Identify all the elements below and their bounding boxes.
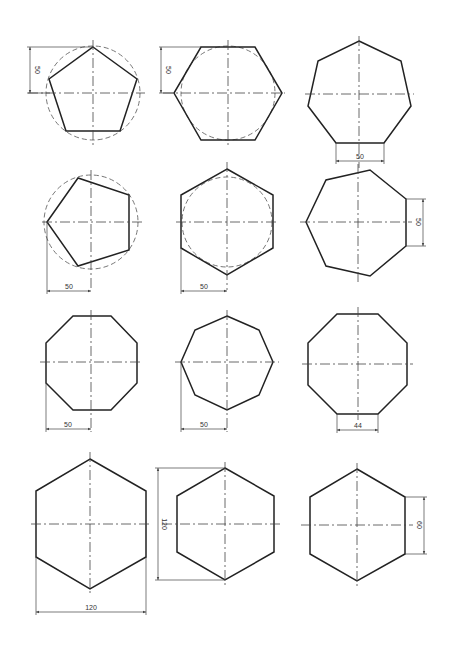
drawing-heptagon-side: 50	[305, 36, 414, 168]
dimension-label: 50	[200, 421, 208, 428]
dimension-arrowhead	[160, 90, 162, 93]
octagon-outline	[46, 316, 137, 410]
dimension-arrowhead	[224, 428, 227, 430]
heptagon-outline	[306, 170, 406, 276]
dimension-label: 50	[65, 283, 73, 290]
dimension-arrowhead	[47, 290, 50, 292]
dimension-arrowhead	[422, 243, 424, 246]
drawing-hexagon-width: 120	[31, 452, 151, 615]
dimension-arrowhead	[157, 577, 159, 580]
drawing-octagon-flat: 50	[40, 310, 143, 432]
drawing-octagon-side: 44	[302, 307, 413, 433]
drawing-hexagon-circumscribed: 50	[159, 40, 285, 146]
dimension-arrowhead	[29, 90, 31, 93]
dimension-arrowhead	[29, 47, 31, 50]
dimension-arrowhead	[143, 611, 146, 613]
dimension-label: 50	[64, 421, 72, 428]
dimension-arrowhead	[181, 290, 184, 292]
dimension-label: 120	[85, 604, 97, 611]
dimension-label: 50	[415, 218, 422, 226]
drawing-octagon-pointed: 50	[175, 310, 279, 432]
polygon-drawing-sheet: 50 50 50 50 50	[0, 0, 455, 648]
dimension-arrowhead	[88, 428, 91, 430]
dimension-arrowhead	[36, 611, 39, 613]
drawing-pentagon-circumscribed: 50	[27, 40, 145, 148]
dimension-arrowhead	[423, 551, 425, 554]
dimension-label: 50	[200, 283, 208, 290]
dimension-label: 120	[161, 518, 168, 530]
heptagon-outline	[308, 41, 411, 143]
dimension-arrowhead	[423, 497, 425, 500]
dimension-arrowhead	[337, 429, 340, 431]
dimension-arrowhead	[157, 468, 159, 471]
dimension-label: 50	[34, 66, 41, 74]
dimension-label: 50	[165, 66, 172, 74]
dimension-label: 60	[416, 521, 423, 529]
dimension-label: 50	[356, 153, 364, 160]
dimension-arrowhead	[422, 199, 424, 202]
dimension-arrowhead	[224, 290, 227, 292]
dimension-arrowhead	[160, 47, 162, 50]
dimension-arrowhead	[181, 428, 184, 430]
drawing-pentagon-rotated: 50	[42, 170, 144, 294]
dimension-label: 44	[354, 422, 362, 429]
dimension-arrowhead	[375, 429, 378, 431]
drawing-hexagon-height: 120	[155, 462, 281, 586]
drawing-heptagon-rotated: 50	[300, 164, 426, 282]
dimension-arrowhead	[336, 160, 339, 162]
dimension-arrowhead	[88, 290, 91, 292]
dimension-arrowhead	[46, 428, 49, 430]
drawing-hexagon-inscribed: 50	[176, 162, 278, 294]
drawing-hexagon-side: 60	[301, 463, 427, 587]
dimension-arrowhead	[381, 160, 384, 162]
